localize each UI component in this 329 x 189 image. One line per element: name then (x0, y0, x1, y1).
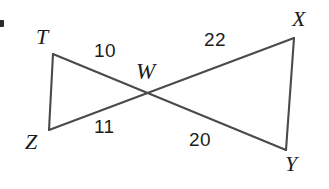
vertex-label-y: Y (285, 153, 297, 175)
measure-label-zw: 11 (94, 117, 115, 136)
segment-tz (49, 54, 53, 130)
vertex-label-x: X (292, 8, 306, 30)
vertex-label-t: T (36, 26, 48, 48)
geometry-figure: T Z W X Y 10 11 22 20 (0, 0, 329, 189)
measure-label-wy: 20 (189, 130, 211, 149)
segment-xy (286, 38, 294, 150)
vertex-label-w: W (136, 60, 155, 83)
segment-ty (53, 54, 286, 150)
measure-label-wx: 22 (204, 30, 226, 49)
segment-zx (49, 38, 294, 130)
vertex-label-z: Z (25, 131, 37, 153)
measure-label-tw: 10 (94, 41, 116, 60)
figure-drawing-canvas (0, 0, 329, 189)
